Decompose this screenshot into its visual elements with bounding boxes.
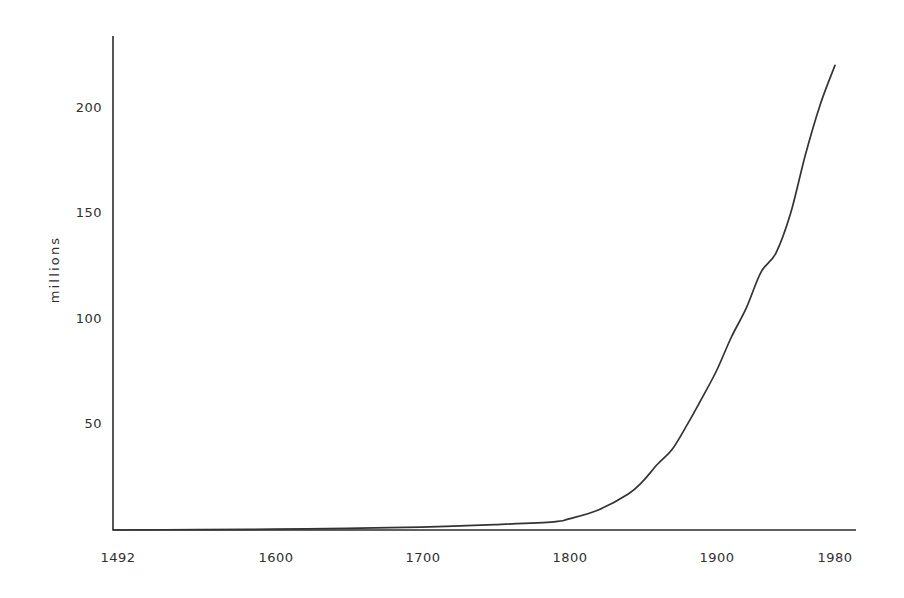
y-tick-label-200: 200 [58, 101, 102, 114]
x-tick-label-1492: 1492 [88, 551, 148, 564]
x-tick-label-1900: 1900 [687, 551, 747, 564]
population-growth-chart: 200 150 100 50 1492 1600 1700 1800 1900 … [0, 0, 904, 598]
y-axis-title: millions [47, 210, 62, 330]
y-tick-label-50: 50 [58, 417, 102, 430]
x-tick-label-1600: 1600 [246, 551, 306, 564]
y-tick-label-100: 100 [58, 312, 102, 325]
x-tick-label-1800: 1800 [540, 551, 600, 564]
y-tick-label-150: 150 [58, 206, 102, 219]
x-tick-label-1980: 1980 [805, 551, 865, 564]
plot-area [0, 0, 904, 598]
data-curve-population [113, 65, 835, 530]
x-tick-label-1700: 1700 [393, 551, 453, 564]
